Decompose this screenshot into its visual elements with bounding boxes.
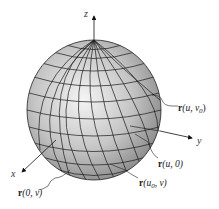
y-axis	[160, 131, 192, 138]
label-r-u-v0: r(u, v0)	[178, 103, 206, 115]
label-r-u-0: r(u, 0)	[158, 159, 183, 170]
label-r-u0-v: r(u0, v)	[139, 178, 167, 190]
x-axis-label: x	[10, 168, 16, 179]
y-axis-label: y	[196, 135, 202, 146]
label-r-0-v: r(0, v)	[18, 188, 42, 199]
sphere	[27, 40, 161, 180]
sphere-diagram: z	[0, 0, 219, 209]
z-axis-label: z	[83, 8, 88, 19]
